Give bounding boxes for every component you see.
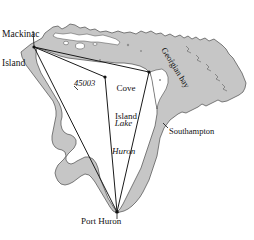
label-cove-island-line1: Cove — [115, 84, 137, 93]
island-dot-4 — [127, 44, 129, 46]
marker-buoy-45003 — [103, 75, 106, 78]
label-lake-huron-line1: Lake — [112, 119, 135, 128]
label-lake-huron: Lake Huron — [112, 101, 135, 174]
label-buoy-45003: 45003 — [74, 79, 95, 88]
lake-huron-map: Mackinac Island Cove Island Lake Huron 4… — [0, 0, 254, 240]
island-dot-1 — [76, 43, 85, 49]
island-dot-2 — [64, 41, 69, 45]
label-mackinac-island-line1: Mackinac — [2, 30, 39, 40]
label-mackinac-island-line2: Island — [2, 59, 39, 69]
island-dot-5 — [140, 50, 142, 52]
label-mackinac-island: Mackinac Island — [2, 11, 39, 89]
label-lake-huron-line2: Huron — [112, 147, 135, 156]
label-port-huron: Port Huron — [81, 217, 121, 226]
marker-port-huron — [115, 210, 119, 214]
marker-cove-island — [147, 70, 150, 73]
island-dot-3 — [93, 43, 97, 46]
island-dot-7 — [159, 79, 161, 81]
label-southampton: Southampton — [169, 127, 214, 136]
